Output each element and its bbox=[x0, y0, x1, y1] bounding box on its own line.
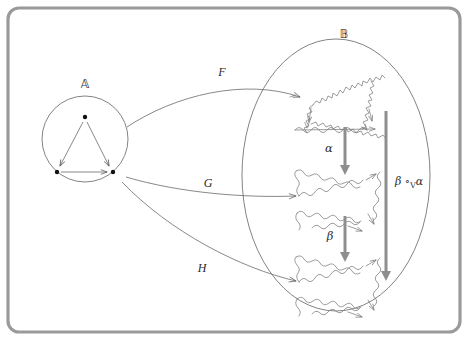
diagram-canvas: 𝔸 𝔹 F G H α β β ∘Vα bbox=[0, 0, 468, 340]
functor-label-F: F bbox=[217, 65, 226, 79]
source-category-label: 𝔸 bbox=[81, 77, 90, 91]
nat-trans-label-composite: β ∘Vα bbox=[394, 175, 424, 190]
target-category-label: 𝔹 bbox=[340, 27, 348, 41]
diagram-svg: 𝔸 𝔹 F G H α β β ∘Vα bbox=[0, 0, 468, 340]
object-dot-top bbox=[83, 115, 87, 119]
functor-label-H: H bbox=[197, 261, 208, 275]
functor-label-G: G bbox=[204, 176, 213, 190]
nat-trans-label-alpha: α bbox=[325, 141, 333, 155]
diagram-frame bbox=[8, 8, 460, 332]
composite-alpha-part: α bbox=[416, 175, 424, 188]
object-dot-bottom-right bbox=[111, 170, 115, 174]
composite-beta-part: β ∘ bbox=[394, 175, 410, 188]
nat-trans-label-beta: β bbox=[326, 229, 334, 243]
object-dot-bottom-left bbox=[55, 170, 59, 174]
